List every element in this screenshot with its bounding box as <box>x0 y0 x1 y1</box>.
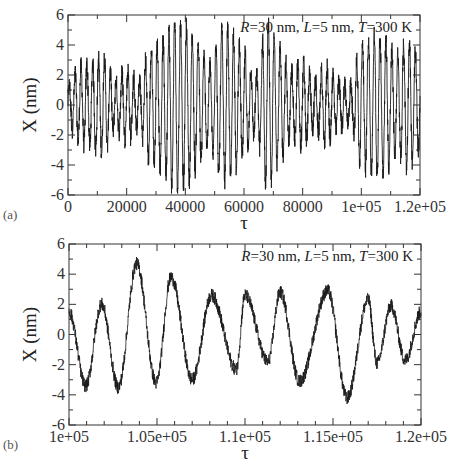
y-tick-label: -4 <box>51 156 64 173</box>
trace-line-b <box>69 257 421 404</box>
x-tick-label: 1.05e+05 <box>127 428 187 445</box>
y-axis-title-b: X (nm) <box>19 307 41 362</box>
y-tick-label: -6 <box>52 416 65 433</box>
y-axis-title-a: X (nm) <box>19 77 41 132</box>
y-tick-label: 2 <box>56 66 64 83</box>
panel-tag-a: (a) <box>3 207 17 223</box>
parameter-annotation-b: R=30 nm, L=5 nm, T=300 K <box>240 248 413 264</box>
plot-area-b: 1e+051.05e+051.1e+051.15e+051.2e+05-6-4-… <box>19 235 447 463</box>
trace-line-a <box>68 18 420 194</box>
y-tick-label: 6 <box>57 235 65 252</box>
axes-frame-b <box>69 244 421 425</box>
x-tick-label: 80000 <box>283 198 323 215</box>
y-tick-label: 6 <box>56 6 64 23</box>
panel-b: 1e+051.05e+051.1e+051.15e+051.2e+05-6-4-… <box>0 229 459 472</box>
series-line <box>69 257 421 404</box>
y-tick-label: 4 <box>57 265 65 282</box>
plot-b: 1e+051.05e+051.1e+051.15e+051.2e+05-6-4-… <box>0 229 459 472</box>
x-tick-label: 20000 <box>107 198 147 215</box>
x-tick-label: 0 <box>64 198 72 215</box>
plot-area-a: 0200004000060000800001e+051.2e+05-6-4-20… <box>19 6 446 233</box>
panel-a: 0200004000060000800001e+051.2e+05-6-4-20… <box>0 0 459 236</box>
y-tick-label: 0 <box>56 96 64 113</box>
x-tick-label: 1.2e+05 <box>395 428 447 445</box>
plot-a: 0200004000060000800001e+051.2e+05-6-4-20… <box>0 0 459 236</box>
x-tick-label: 1.15e+05 <box>303 428 363 445</box>
y-tick-label: -4 <box>52 386 65 403</box>
series-line <box>68 18 420 194</box>
parameter-annotation-a: R=30 nm, L=5 nm, T=300 K <box>239 19 412 35</box>
y-tick-label: 4 <box>56 36 64 53</box>
y-tick-label: 2 <box>57 295 65 312</box>
y-tick-label: 0 <box>57 326 65 343</box>
panel-tag-b: (b) <box>3 437 18 453</box>
x-tick-label: 1e+05 <box>341 198 381 215</box>
y-tick-label: -2 <box>51 126 64 143</box>
x-tick-label: 40000 <box>165 198 205 215</box>
y-tick-label: -6 <box>51 186 64 203</box>
x-axis-title-b: τ <box>241 442 249 463</box>
y-tick-label: -2 <box>52 356 65 373</box>
x-tick-label: 1.2e+05 <box>394 198 446 215</box>
